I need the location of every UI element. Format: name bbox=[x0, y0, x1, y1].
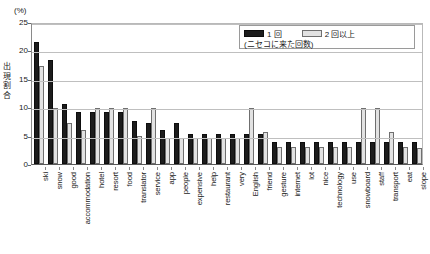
x-axis-tick-mark bbox=[325, 167, 326, 170]
bar-series1 bbox=[132, 121, 137, 164]
x-axis-label-english: English bbox=[251, 172, 260, 196]
x-axis-label-friend: friend bbox=[265, 172, 274, 190]
x-axis-tick-mark bbox=[423, 167, 424, 170]
x-axis-label-app: app bbox=[167, 172, 176, 184]
bar-series2 bbox=[207, 138, 212, 164]
bar-group bbox=[172, 24, 186, 164]
bar-series2 bbox=[361, 108, 366, 164]
x-axis-tick-mark bbox=[87, 167, 88, 170]
x-axis-tick-label: snowboard bbox=[363, 172, 372, 208]
x-axis-tick-mark bbox=[101, 167, 102, 170]
x-axis-tick-mark bbox=[367, 167, 368, 170]
bar-series1 bbox=[342, 142, 347, 164]
bar-series1 bbox=[34, 42, 39, 164]
y-axis-tick-mark bbox=[28, 165, 31, 166]
legend-entries: 1 回 2 回以上 bbox=[244, 28, 355, 38]
x-axis-label-internet: internet bbox=[293, 172, 302, 197]
bar-series2 bbox=[319, 147, 324, 164]
bar-series1 bbox=[188, 134, 193, 164]
bar-series1 bbox=[48, 60, 53, 164]
x-axis-label-restaurant: restaurant bbox=[223, 172, 232, 205]
x-axis-tick-mark bbox=[185, 167, 186, 170]
x-axis-tick-mark bbox=[409, 167, 410, 170]
x-axis-tick-label: eat bbox=[405, 172, 414, 182]
x-axis-tick-label: staff bbox=[377, 172, 386, 186]
x-axis-label-translator: translator bbox=[139, 172, 148, 203]
bar-series2 bbox=[95, 108, 100, 164]
x-axis-tick-label: snow bbox=[55, 172, 64, 189]
x-axis-tick-label: very bbox=[237, 172, 246, 186]
bar-group bbox=[200, 24, 214, 164]
x-axis-tick-mark bbox=[353, 167, 354, 170]
x-axis-tick-mark bbox=[115, 167, 116, 170]
legend: 1 回 2 回以上 (ニセコに来た回数) bbox=[239, 25, 415, 49]
x-axis-tick-label: restaurant bbox=[223, 172, 232, 205]
x-axis-tick-label: English bbox=[251, 172, 260, 196]
x-axis-label-service: service bbox=[153, 172, 162, 195]
bar-series2 bbox=[179, 138, 184, 164]
x-axis-label-nice: nice bbox=[321, 172, 330, 186]
x-axis-label-eat: eat bbox=[405, 172, 414, 182]
bar-series2 bbox=[375, 108, 380, 164]
y-axis-tick-label: 20 bbox=[8, 46, 28, 55]
x-axis-label-accommodation: accommodation bbox=[83, 172, 92, 224]
bar-series1 bbox=[314, 142, 319, 164]
gridline bbox=[32, 109, 422, 110]
bar-group bbox=[74, 24, 88, 164]
bar-chart: (%) 出 現 割 合 0510152025 skisnowgoodaccomm… bbox=[0, 0, 430, 254]
x-axis-tick-label: lot bbox=[307, 172, 316, 180]
bar-series1 bbox=[384, 142, 389, 164]
legend-note: (ニセコに来た回数) bbox=[244, 38, 313, 49]
bar-series2 bbox=[193, 138, 198, 164]
x-axis-label-help: help bbox=[209, 172, 218, 186]
bar-series1 bbox=[160, 130, 165, 164]
bar-series2 bbox=[123, 108, 128, 164]
x-axis-tick-mark bbox=[283, 167, 284, 170]
x-axis-tick-label: app bbox=[167, 172, 176, 184]
x-axis-tick-label: nice bbox=[321, 172, 330, 186]
x-axis-label-lot: lot bbox=[307, 172, 316, 180]
bar-series1 bbox=[146, 123, 151, 164]
x-axis-tick-mark bbox=[227, 167, 228, 170]
bar-series2 bbox=[249, 108, 254, 164]
x-axis-label-use: use bbox=[349, 172, 358, 184]
bar-series1 bbox=[62, 104, 67, 164]
x-axis-tick-label: service bbox=[153, 172, 162, 195]
x-axis-labels: skisnowgoodaccommodationhotelresortfoodt… bbox=[31, 167, 423, 253]
bar-series2 bbox=[333, 147, 338, 164]
bar-group bbox=[158, 24, 172, 164]
bar-series2 bbox=[277, 147, 282, 164]
x-axis-tick-label: good bbox=[69, 172, 78, 189]
x-axis-tick-label: friend bbox=[265, 172, 274, 190]
x-axis-tick-mark bbox=[199, 167, 200, 170]
bar-series1 bbox=[398, 142, 403, 164]
x-axis-label-staff: staff bbox=[377, 172, 386, 186]
bar-series2 bbox=[347, 147, 352, 164]
x-axis-tick-mark bbox=[45, 167, 46, 170]
x-axis-tick-label: food bbox=[125, 172, 134, 186]
legend-label-series2: 2 回以上 bbox=[325, 28, 356, 39]
gridline bbox=[32, 81, 422, 82]
bar-series1 bbox=[412, 142, 417, 164]
bar-series2 bbox=[235, 138, 240, 164]
x-axis-tick-mark bbox=[311, 167, 312, 170]
x-axis-tick-mark bbox=[157, 167, 158, 170]
bar-series1 bbox=[258, 134, 263, 164]
bar-series1 bbox=[202, 134, 207, 164]
x-axis-tick-label: technology bbox=[335, 172, 344, 208]
bar-series2 bbox=[417, 148, 422, 164]
x-axis-tick-mark bbox=[213, 167, 214, 170]
x-axis-tick-label: translator bbox=[139, 172, 148, 203]
bar-series2 bbox=[165, 138, 170, 164]
x-axis-label-food: food bbox=[125, 172, 134, 186]
bar-group bbox=[88, 24, 102, 164]
x-axis-tick-label: internet bbox=[293, 172, 302, 197]
bar-group bbox=[214, 24, 228, 164]
bar-series1 bbox=[174, 123, 179, 164]
x-axis-tick-label: ski bbox=[41, 172, 50, 181]
x-axis-label-ski: ski bbox=[41, 172, 50, 181]
bar-series2 bbox=[305, 147, 310, 164]
x-axis-tick-mark bbox=[269, 167, 270, 170]
x-axis-tick-label: gesture bbox=[279, 172, 288, 197]
x-axis-tick-label: help bbox=[209, 172, 218, 186]
